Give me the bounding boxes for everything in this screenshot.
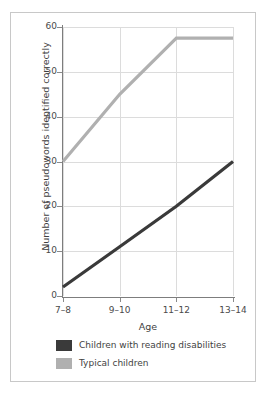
y-axis-tick [57,251,62,252]
y-axis-tick [57,72,62,73]
legend-item: Children with reading disabilities [56,338,246,353]
legend-swatch-reading-disabilities [56,340,72,351]
y-axis-tick-label: 60 [29,22,57,31]
y-axis-tick [57,27,62,28]
x-axis-tick-label: 11–12 [153,305,199,315]
x-axis-tick [233,298,234,302]
y-axis-tick [57,206,62,207]
y-axis-tick-label: 20 [29,201,57,210]
x-axis-tick-label: 9–10 [97,305,143,315]
x-axis-title: Age [63,321,233,332]
x-axis-tick [120,298,121,302]
y-axis-tick [57,296,62,297]
x-axis-tick-label: 13–14 [210,305,256,315]
x-axis-tick-label: 7–8 [40,305,86,315]
chart-legend: Children with reading disabilities Typic… [56,338,246,374]
y-axis-title: Number of pseudowords identified correct… [40,21,51,273]
y-axis-tick-label: 30 [29,157,57,166]
legend-label-typical-children: Typical children [79,358,149,369]
legend-swatch-typical-children [56,358,72,369]
y-axis-tick-label: 0 [29,291,57,300]
caption-clipped [8,390,264,401]
series-line [63,162,233,288]
y-axis-tick [57,117,62,118]
x-axis-line [62,297,235,298]
x-axis-tick [176,298,177,302]
gridline-vertical [233,27,234,296]
y-axis-tick [57,162,62,163]
series-lines [63,27,233,296]
figure-frame: Number of pseudowords identified correct… [10,12,256,382]
y-axis-tick-label: 40 [29,112,57,121]
series-line [63,38,233,161]
y-axis-tick-label: 50 [29,67,57,76]
x-axis-tick [63,298,64,302]
legend-label-reading-disabilities: Children with reading disabilities [79,340,226,351]
y-axis-tick-label: 10 [29,246,57,255]
legend-item: Typical children [56,356,246,371]
